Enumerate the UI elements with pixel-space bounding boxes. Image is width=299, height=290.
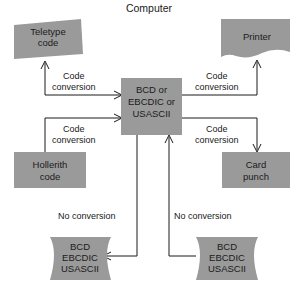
tape-left-label-line-2: EBCDIC [62, 252, 98, 263]
edge-label-to-tape-left: No conversion [58, 211, 116, 221]
teletype-code-label-line-2: code [38, 37, 59, 48]
node-hollerith-code[interactable]: Hollerith code [14, 152, 86, 188]
edge-label-from-hollerith-line-1: Code [63, 124, 85, 134]
edge-label-to-card-punch: Code conversion [195, 124, 239, 145]
edge-label-from-hollerith: Code conversion [52, 124, 96, 145]
edge-label-from-hollerith-line-2: conversion [52, 135, 96, 145]
edge-label-to-printer-line-2: conversion [195, 82, 239, 92]
diagram-title: Computer [126, 2, 173, 14]
edge-label-to-teletype-line-1: Code [63, 71, 85, 81]
edge-label-to-card-punch-line-1: Code [206, 124, 228, 134]
hollerith-code-label-line-2: code [40, 171, 61, 182]
edge-label-from-tape-right: No conversion [174, 211, 232, 221]
edge-label-to-printer: Code conversion [195, 71, 239, 92]
edge-label-to-teletype-line-2: conversion [52, 82, 96, 92]
node-tape-right[interactable]: BCD EBCDIC USASCII [196, 237, 258, 280]
tape-left-label-line-1: BCD [70, 241, 90, 252]
hollerith-code-shape [14, 152, 86, 188]
edge-from-tape-right [165, 135, 196, 256]
card-punch-label-line-2: punch [243, 171, 269, 182]
code-conversion-flow-diagram: Computer [0, 0, 299, 290]
edge-label-to-card-punch-line-2: conversion [195, 135, 239, 145]
node-central-processor[interactable]: BCD or EBCDIC or USASCII [121, 78, 182, 135]
edge-from-tape-right-path [169, 137, 196, 256]
teletype-code-label-line-1: Teletype [30, 26, 65, 37]
node-printer[interactable]: Printer [221, 19, 290, 57]
card-punch-shape [222, 152, 290, 188]
edge-to-card-punch-path [182, 118, 257, 150]
central-processor-label-line-3: USASCII [132, 108, 170, 119]
printer-label: Printer [243, 31, 271, 42]
central-processor-label-line-1: BCD or [136, 84, 167, 95]
hollerith-code-label-line-1: Hollerith [33, 159, 68, 170]
tape-right-label-line-2: EBCDIC [209, 252, 245, 263]
tape-left-label-line-3: USASCII [61, 263, 99, 274]
central-processor-label-line-2: EBCDIC or [128, 96, 175, 107]
node-tape-left[interactable]: BCD EBCDIC USASCII [50, 237, 111, 280]
edge-label-to-teletype: Code conversion [52, 71, 96, 92]
diagram-canvas: Computer [0, 0, 299, 290]
edge-label-to-tape-left-line-1: No conversion [58, 211, 116, 221]
node-teletype-code[interactable]: Teletype code [14, 19, 83, 59]
node-card-punch[interactable]: Card punch [222, 152, 290, 188]
tape-right-label-line-3: USASCII [208, 263, 246, 274]
edge-label-to-printer-line-1: Code [206, 71, 228, 81]
card-punch-label-line-1: Card [246, 159, 267, 170]
tape-right-label-line-1: BCD [217, 241, 237, 252]
edge-label-from-tape-right-line-1: No conversion [174, 211, 232, 221]
